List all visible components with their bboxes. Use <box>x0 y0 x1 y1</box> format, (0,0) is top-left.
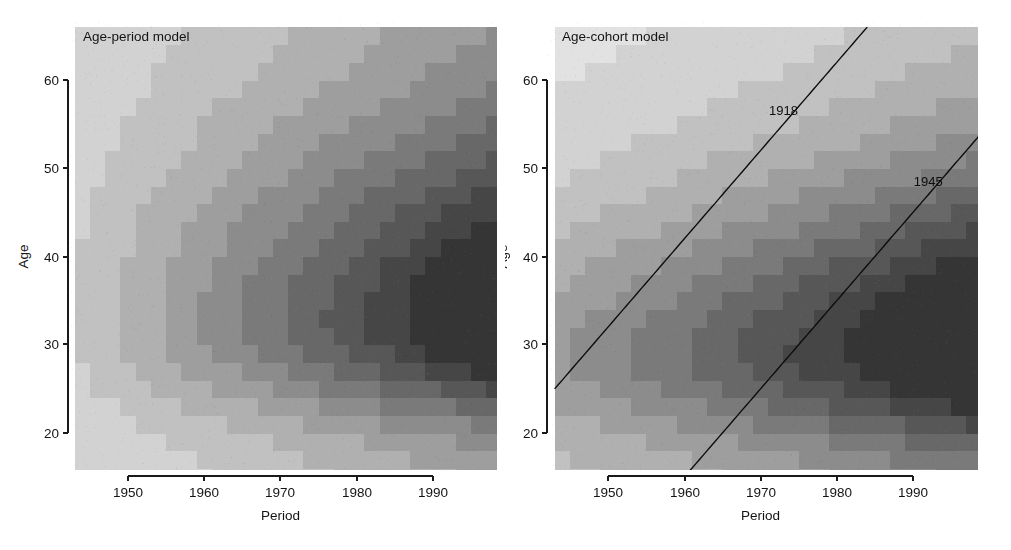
x-tick-label-1980: 1980 <box>822 485 852 500</box>
age-cohort-plot: 19181945203040506019501960197019801990Pe… <box>505 0 1011 550</box>
x-tick-label-1950: 1950 <box>113 485 143 500</box>
y-tick-label-60: 60 <box>44 73 59 88</box>
y-tick-label-50: 50 <box>523 161 538 176</box>
x-tick-label-1970: 1970 <box>746 485 776 500</box>
heatmap-raster <box>75 27 503 487</box>
y-axis-title: Age <box>505 244 510 268</box>
heatmap-raster <box>555 27 983 487</box>
y-tick-label-20: 20 <box>523 426 538 441</box>
panel-title: Age-period model <box>83 29 190 44</box>
y-tick-label-30: 30 <box>44 337 59 352</box>
panel-age-period: 203040506019501960197019801990PeriodAgeA… <box>0 0 505 550</box>
x-tick-label-1960: 1960 <box>189 485 219 500</box>
x-tick-label-1990: 1990 <box>418 485 448 500</box>
x-tick-label-1950: 1950 <box>593 485 623 500</box>
x-tick-label-1980: 1980 <box>342 485 372 500</box>
y-tick-label-40: 40 <box>44 250 59 265</box>
cohort-label-1918: 1918 <box>769 103 798 118</box>
x-tick-label-1970: 1970 <box>265 485 295 500</box>
x-tick-label-1990: 1990 <box>898 485 928 500</box>
y-tick-label-60: 60 <box>523 73 538 88</box>
y-tick-label-20: 20 <box>44 426 59 441</box>
figure-canvas: 203040506019501960197019801990PeriodAgeA… <box>0 0 1011 550</box>
y-tick-label-50: 50 <box>44 161 59 176</box>
x-axis-title: Period <box>741 508 780 523</box>
y-axis-title: Age <box>16 244 31 268</box>
panel-age-cohort: 19181945203040506019501960197019801990Pe… <box>505 0 1011 550</box>
y-tick-label-30: 30 <box>523 337 538 352</box>
age-period-plot: 203040506019501960197019801990PeriodAgeA… <box>0 0 505 550</box>
panel-title: Age-cohort model <box>562 29 669 44</box>
x-axis-title: Period <box>261 508 300 523</box>
y-tick-label-40: 40 <box>523 250 538 265</box>
cohort-label-1945: 1945 <box>914 174 943 189</box>
x-tick-label-1960: 1960 <box>670 485 700 500</box>
